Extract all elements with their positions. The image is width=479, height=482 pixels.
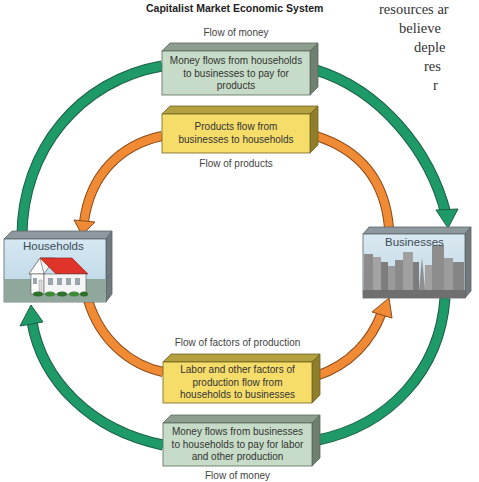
money-arrow-bottom-to-households: [20, 305, 163, 445]
box-text-line: and other production: [163, 451, 312, 464]
factors-arrow-to-businesses: [316, 298, 392, 376]
factors-arrow-from-households: [88, 300, 163, 372]
box-text-line: production flow from: [163, 377, 312, 390]
box-text-line: Money flows from businesses: [163, 426, 312, 439]
bottom-factors-box-text: Labor and other factors of production fl…: [163, 364, 312, 402]
box-text-line: to households to pay for labor: [163, 439, 312, 452]
top-product-box-text: Products flow from businesses to househo…: [162, 121, 310, 146]
top-money-box-text: Money flows from households to businesse…: [162, 55, 310, 93]
money-arrow-households-to-top: [22, 66, 162, 236]
product-arrow-from-businesses: [316, 136, 389, 228]
box-text-line: households to businesses: [163, 389, 312, 402]
bottom-money-caption: Flow of money: [163, 470, 312, 481]
box-text-line: Money flows from households: [162, 55, 310, 68]
product-arrow-to-households: [74, 136, 162, 235]
bottom-factors-caption: Flow of factors of production: [163, 337, 312, 348]
top-money-caption: Flow of money: [162, 27, 310, 38]
box-text-line: Products flow from: [162, 121, 310, 134]
businesses-label: Businesses: [385, 236, 444, 248]
bottom-money-box-text: Money flows from businesses to household…: [163, 426, 312, 464]
households-label: Households: [23, 240, 84, 252]
box-text-line: Labor and other factors of: [163, 364, 312, 377]
top-product-caption: Flow of products: [162, 158, 310, 169]
box-text-line: businesses to households: [162, 134, 310, 147]
box-text-line: to businesses to pay for: [162, 68, 310, 81]
box-text-line: products: [162, 80, 310, 93]
